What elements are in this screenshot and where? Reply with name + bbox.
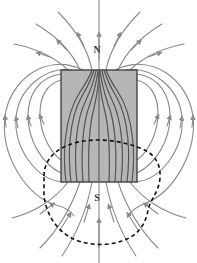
south-pole-label: S — [90, 193, 104, 203]
field-line-loop-left-2 — [28, 74, 61, 173]
field-arrow-top-2 — [58, 41, 67, 50]
field-line-top-6 — [130, 44, 184, 70]
field-line-loop-left-1 — [40, 80, 61, 160]
field-arrow-top-1 — [78, 34, 84, 46]
field-arrow-top-4 — [114, 34, 120, 46]
field-diagram-canvas — [0, 0, 197, 263]
north-pole-label: N — [90, 45, 104, 55]
field-line-top-2 — [36, 24, 80, 70]
field-arrow-right-4 — [192, 117, 193, 127]
magnetic-field-figure: N S — [0, 0, 197, 263]
field-line-top-3 — [14, 44, 68, 70]
field-line-bottom-3 — [12, 182, 68, 218]
field-line-loop-right-2 — [137, 74, 170, 173]
field-line-top-5 — [118, 24, 162, 70]
field-arrow-top-5 — [131, 41, 140, 50]
field-arrow-left-4 — [5, 117, 6, 127]
